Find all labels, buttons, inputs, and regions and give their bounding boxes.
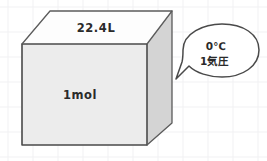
bubble-line-1: 0℃ xyxy=(206,40,227,52)
condition-speech-bubble: 0℃ 1気圧 xyxy=(0,0,267,161)
bubble-line-2: 1気圧 xyxy=(200,55,229,67)
diagram-canvas: 22.4L 1mol 0℃ 1気圧 xyxy=(0,0,267,161)
